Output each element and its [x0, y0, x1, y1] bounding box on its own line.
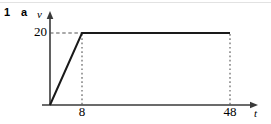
x-axis-arrowhead-icon: [250, 102, 258, 109]
y-axis-arrowhead-icon: [47, 11, 54, 19]
graph-canvas: [0, 0, 271, 124]
velocity-curve: [50, 33, 230, 105]
velocity-time-graph-figure: 1 a v t 20 8 48: [0, 0, 271, 124]
